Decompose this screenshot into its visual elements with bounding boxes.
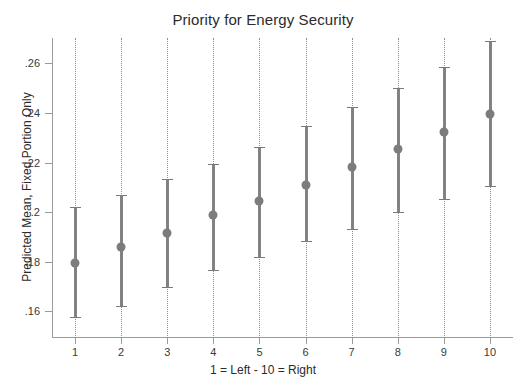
x-tick-label: 8	[383, 346, 413, 358]
confidence-interval-cap	[485, 41, 496, 42]
x-tick-mark	[259, 338, 260, 344]
data-point-marker	[393, 145, 402, 154]
confidence-interval-cap	[485, 186, 496, 187]
data-point-marker	[485, 110, 494, 119]
x-tick-mark	[352, 338, 353, 344]
data-point-marker	[255, 197, 264, 206]
x-tick-mark	[213, 338, 214, 344]
confidence-interval-cap	[116, 195, 127, 196]
data-point-marker	[117, 243, 126, 252]
confidence-interval-cap	[254, 257, 265, 258]
confidence-interval-cap	[208, 270, 219, 271]
y-axis-line	[52, 38, 53, 338]
confidence-interval-cap	[254, 147, 265, 148]
data-point-marker	[163, 228, 172, 237]
chart-title: Priority for Energy Security	[0, 11, 526, 28]
y-tick-mark	[45, 113, 52, 114]
confidence-interval-cap	[70, 317, 81, 318]
x-tick-label: 10	[475, 346, 505, 358]
x-tick-mark	[306, 338, 307, 344]
data-point-marker	[71, 258, 80, 267]
x-tick-label: 3	[152, 346, 182, 358]
data-point-marker	[439, 127, 448, 136]
confidence-interval-cap	[162, 179, 173, 180]
confidence-interval-cap	[439, 67, 450, 68]
confidence-interval-cap	[439, 199, 450, 200]
y-tick-mark	[45, 262, 52, 263]
data-point-marker	[347, 163, 356, 172]
x-tick-mark	[490, 338, 491, 344]
confidence-interval-cap	[347, 107, 358, 108]
data-point-marker	[301, 180, 310, 189]
confidence-interval-cap	[301, 241, 312, 242]
x-tick-label: 5	[244, 346, 274, 358]
confidence-interval-cap	[393, 88, 404, 89]
x-tick-mark	[75, 338, 76, 344]
confidence-interval-cap	[393, 212, 404, 213]
confidence-interval-cap	[208, 164, 219, 165]
confidence-interval-cap	[301, 126, 312, 127]
x-tick-label: 7	[337, 346, 367, 358]
x-tick-label: 6	[291, 346, 321, 358]
x-axis-title: 1 = Left - 10 = Right	[0, 363, 526, 377]
x-tick-label: 1	[60, 346, 90, 358]
y-tick-mark	[45, 163, 52, 164]
x-tick-label: 2	[106, 346, 136, 358]
x-tick-mark	[398, 338, 399, 344]
data-point-marker	[209, 210, 218, 219]
x-tick-label: 4	[198, 346, 228, 358]
confidence-interval-cap	[116, 306, 127, 307]
confidence-interval-cap	[70, 207, 81, 208]
y-axis-title: Predicted Mean, Fixed Portion Only	[20, 37, 34, 337]
y-tick-mark	[45, 212, 52, 213]
y-tick-mark	[45, 63, 52, 64]
chart-figure: Priority for Energy Security .16.18.2.22…	[0, 0, 526, 389]
x-tick-label: 9	[429, 346, 459, 358]
x-tick-mark	[444, 338, 445, 344]
x-tick-mark	[167, 338, 168, 344]
confidence-interval-cap	[347, 229, 358, 230]
y-tick-mark	[45, 311, 52, 312]
x-tick-mark	[121, 338, 122, 344]
confidence-interval-cap	[162, 287, 173, 288]
